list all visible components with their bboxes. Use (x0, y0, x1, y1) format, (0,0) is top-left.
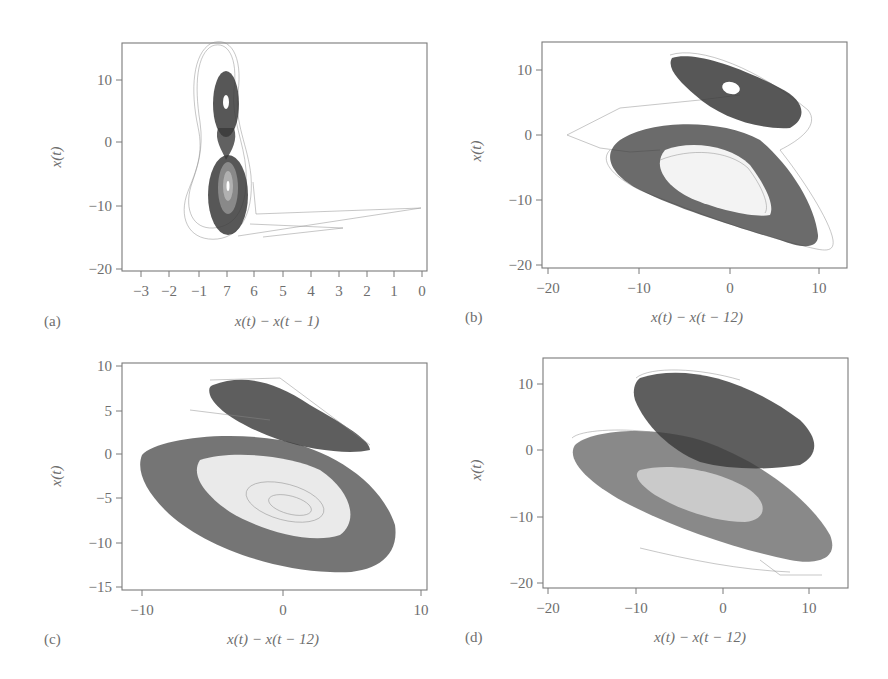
panel-a-xtick: 4 (307, 283, 315, 299)
panel-a-xlabel: x(t) − x(t − 1) (234, 313, 319, 330)
panel-a-xtick: 1 (390, 283, 398, 299)
panel-d-ytick: −20 (510, 575, 533, 591)
panel-c-ytick: −15 (89, 579, 112, 595)
panel-c-y-axis: 10 5 0 −5 −10 −15 x(t) (48, 358, 122, 595)
panel-a-ytick: −10 (89, 198, 112, 214)
panel-b-y-axis: 10 0 −10 −20 x(t) (468, 62, 542, 273)
panel-d-xlabel: x(t) − x(t − 12) (653, 629, 746, 646)
panel-a-ylabel: x(t) (48, 147, 65, 169)
panel-c-ytick: 5 (105, 403, 113, 419)
panel-d: 10 0 −10 −20 x(t) −20 −10 0 10 x(t) − x(… (465, 358, 848, 646)
panel-d-y-axis: 10 0 −10 −20 x(t) (468, 376, 543, 591)
panel-a-trajectory (184, 42, 421, 240)
panel-b-x-axis: −20 −10 0 10 x(t) − x(t − 12) (536, 268, 826, 326)
panel-c-ytick: 0 (105, 446, 113, 462)
panel-a-ytick: −20 (89, 261, 112, 277)
panel-b-ytick: 0 (525, 127, 533, 143)
panel-c-xlabel: x(t) − x(t − 12) (226, 631, 319, 648)
panel-a-upper-lobe-hole (223, 95, 229, 109)
panel-d-ytick: −10 (510, 509, 533, 525)
panel-a-y-axis: 10 0 −10 −20 x(t) (48, 72, 122, 277)
panel-c-trajectory (140, 378, 395, 572)
panel-c-label: (c) (44, 631, 61, 648)
panel-c-ytick: −5 (96, 490, 112, 506)
panel-b-xtick: 0 (726, 280, 734, 296)
panel-a-ytick: 0 (105, 134, 113, 150)
panel-d-ytick: 0 (526, 442, 534, 458)
panel-d-xtick: 0 (719, 600, 727, 616)
panel-c-xtick: −10 (130, 602, 153, 618)
panel-b-ylabel: x(t) (468, 141, 485, 163)
panel-d-ylabel: x(t) (468, 460, 485, 482)
panel-a-label: (a) (44, 313, 61, 330)
panel-b: 10 0 −10 −20 x(t) −20 −10 0 10 x(t) − x(… (465, 42, 847, 326)
panel-b-ytick: −20 (509, 257, 532, 273)
panel-c-ytick: −10 (89, 535, 112, 551)
panel-d-trajectory (572, 370, 832, 575)
panel-a-xtick: −1 (191, 283, 207, 299)
panel-c: 10 5 0 −5 −10 −15 x(t) −10 0 10 x(t) − x… (44, 358, 429, 648)
panel-d-x-axis: −20 −10 0 10 x(t) − x(t − 12) (536, 588, 816, 646)
panel-c-xtick: 10 (414, 602, 429, 618)
panel-d-xtick: 10 (802, 600, 817, 616)
panel-b-ytick: −10 (509, 192, 532, 208)
figure-canvas: 10 0 −10 −20 x(t) −3 −2 −1 7 6 5 4 3 (0, 0, 888, 679)
panel-b-trajectory (567, 53, 833, 250)
panel-d-ytick: 10 (518, 376, 533, 392)
panel-c-x-axis: −10 0 10 x(t) − x(t − 12) (130, 590, 428, 648)
panel-a: 10 0 −10 −20 x(t) −3 −2 −1 7 6 5 4 3 (44, 42, 427, 330)
panel-b-label: (b) (465, 309, 483, 326)
panel-b-xtick: 10 (812, 280, 827, 296)
panel-a-xtick: 3 (335, 283, 343, 299)
panel-b-xlabel: x(t) − x(t − 12) (650, 309, 743, 326)
panel-c-ytick: 10 (97, 358, 112, 374)
panel-a-xtick: 0 (418, 283, 426, 299)
panel-c-xtick: 0 (279, 602, 287, 618)
panel-b-xtick: −10 (627, 280, 650, 296)
panel-a-xtick: −2 (161, 283, 177, 299)
panel-d-xtick: −20 (536, 600, 559, 616)
panel-a-xtick: 6 (250, 283, 258, 299)
panel-c-ylabel: x(t) (48, 466, 65, 488)
panel-d-label: (d) (465, 629, 483, 646)
panel-b-xtick: −20 (536, 280, 559, 296)
panel-a-ytick: 10 (97, 72, 112, 88)
panel-a-xtick: −3 (133, 283, 149, 299)
panel-a-frame (122, 43, 427, 271)
panel-d-xtick: −10 (624, 600, 647, 616)
panel-a-x-axis: −3 −2 −1 7 6 5 4 3 2 1 0 x(t) − x(t − 1) (133, 271, 426, 330)
panel-b-ytick: 10 (517, 62, 532, 78)
panel-a-xtick: 5 (279, 283, 287, 299)
panel-a-xtick: 7 (223, 283, 231, 299)
panel-a-xtick: 2 (363, 283, 371, 299)
